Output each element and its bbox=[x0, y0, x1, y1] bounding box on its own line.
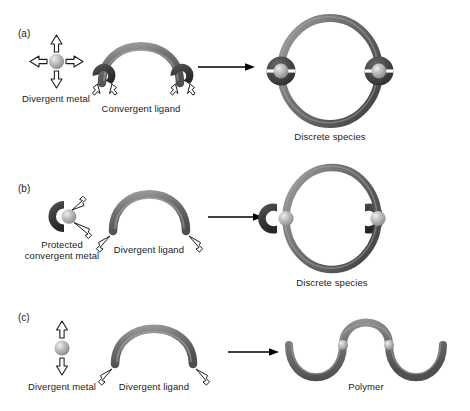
arrow-down-icon bbox=[51, 71, 62, 88]
panel-c bbox=[54, 321, 443, 385]
label-divergent-ligand-c: Divergent ligand bbox=[119, 381, 189, 392]
label-protected-metal-line1: Protected bbox=[41, 239, 83, 250]
metal-node-left bbox=[338, 340, 348, 350]
polymer-chain bbox=[289, 323, 443, 378]
arrow-inward-icon bbox=[72, 196, 86, 210]
metal-node-left bbox=[278, 211, 293, 226]
arrow-right-icon bbox=[66, 56, 83, 67]
figure-canvas: (a) Divergent metal Convergent ligand Di… bbox=[0, 0, 470, 411]
label-polymer: Polymer bbox=[348, 381, 384, 392]
arrow-down-icon bbox=[57, 358, 68, 375]
arrow-converge-icon bbox=[110, 84, 118, 95]
reaction-arrow-a bbox=[198, 63, 255, 71]
protecting-crescent-left-icon bbox=[258, 204, 277, 234]
label-discrete-species-a: Discrete species bbox=[294, 131, 365, 142]
metal-sphere-icon bbox=[49, 54, 64, 69]
arrow-left-icon bbox=[30, 56, 47, 67]
label-divergent-metal-c: Divergent metal bbox=[28, 381, 96, 392]
protected-convergent-metal-icon bbox=[48, 196, 91, 238]
arrow-converge-icon bbox=[188, 84, 196, 95]
divergent-ligand-icon-c bbox=[98, 329, 209, 385]
arrow-diverge-icon bbox=[196, 369, 210, 385]
label-protected-metal-line2: convergent metal bbox=[25, 250, 99, 261]
metal-node-left bbox=[267, 57, 296, 86]
arrow-up-icon bbox=[57, 321, 68, 338]
arrow-up-icon bbox=[51, 35, 62, 52]
label-divergent-metal-a: Divergent metal bbox=[22, 93, 90, 104]
ligand-arch bbox=[115, 329, 193, 364]
macrocycle-ring-highlight bbox=[285, 166, 377, 268]
label-discrete-species-b: Discrete species bbox=[296, 277, 367, 288]
discrete-species-icon-b bbox=[258, 166, 385, 269]
panel-tag-b: (b) bbox=[18, 183, 30, 194]
convergent-ligand-icon-a bbox=[92, 46, 195, 95]
arrow-diverge-icon bbox=[98, 369, 112, 385]
protecting-crescent-icon bbox=[48, 201, 64, 232]
panel-tag-c: (c) bbox=[18, 312, 30, 323]
metal-node-right bbox=[384, 340, 394, 350]
polymer-icon bbox=[289, 323, 443, 378]
arrow-inward-icon bbox=[74, 223, 92, 239]
divergent-metal-icon-c bbox=[54, 321, 69, 375]
metal-node-right bbox=[365, 57, 394, 86]
reaction-arrow-c bbox=[228, 348, 279, 356]
label-divergent-ligand-b: Divergent ligand bbox=[114, 244, 184, 255]
metal-sphere-icon bbox=[62, 209, 77, 224]
metal-sphere-icon bbox=[54, 340, 69, 355]
reaction-arrow-b bbox=[208, 213, 263, 221]
panel-a bbox=[30, 17, 394, 124]
ligand-arch bbox=[113, 194, 186, 231]
arrow-diverge-icon bbox=[189, 236, 203, 252]
metal-node-right bbox=[370, 211, 385, 226]
panel-tag-a: (a) bbox=[18, 28, 30, 39]
label-convergent-ligand-a: Convergent ligand bbox=[102, 103, 181, 114]
diagram-svg bbox=[0, 0, 470, 411]
divergent-metal-icon-a bbox=[30, 35, 83, 88]
discrete-species-icon-a bbox=[267, 17, 394, 124]
polymer-chain-highlight bbox=[292, 324, 441, 374]
